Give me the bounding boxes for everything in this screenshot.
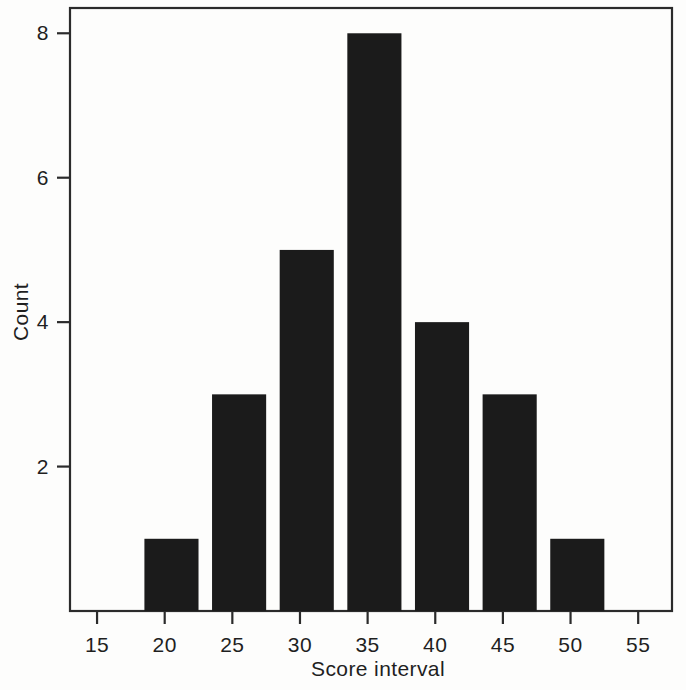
x-tick-label-55: 55	[626, 633, 650, 656]
x-tick-label-15: 15	[85, 633, 109, 656]
y-axis-title: Count	[9, 283, 32, 341]
chart-canvas: 152025303540455055 2468 Score interval C…	[0, 0, 686, 690]
histogram-bar	[280, 250, 334, 611]
histogram-bar	[415, 322, 469, 611]
y-axis-ticks	[57, 33, 70, 466]
x-tick-label-50: 50	[558, 633, 582, 656]
x-tick-label-25: 25	[220, 633, 244, 656]
y-tick-label-6: 6	[37, 166, 49, 189]
histogram-bar	[483, 394, 537, 611]
x-tick-label-45: 45	[491, 633, 515, 656]
x-tick-label-35: 35	[355, 633, 379, 656]
histogram-bar	[347, 33, 401, 611]
histogram-bar	[550, 539, 604, 611]
x-axis-title: Score interval	[311, 657, 445, 680]
y-tick-label-2: 2	[37, 455, 49, 478]
y-axis-tick-labels: 2468	[37, 21, 49, 477]
x-tick-label-30: 30	[288, 633, 312, 656]
x-tick-label-40: 40	[423, 633, 447, 656]
x-axis-tick-labels: 152025303540455055	[85, 633, 650, 656]
x-axis-ticks	[97, 611, 638, 624]
histogram-bar	[144, 539, 198, 611]
histogram-bar	[212, 394, 266, 611]
y-tick-label-4: 4	[37, 310, 49, 333]
x-tick-label-20: 20	[153, 633, 177, 656]
y-tick-label-8: 8	[37, 21, 49, 44]
histogram-figure: 152025303540455055 2468 Score interval C…	[0, 0, 686, 690]
histogram-bars	[144, 33, 604, 611]
